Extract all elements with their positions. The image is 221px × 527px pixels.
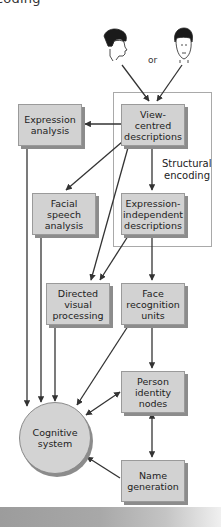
node-directed-visual-processing: Directed visual processing [46,283,110,325]
node-expression-analysis: Expression analysis [18,104,82,146]
node-person-identity-nodes: Person identity nodes [121,371,185,413]
node-face-recognition-units: Face recognition units [121,283,185,325]
structural-encoding-label: Structural encoding [162,158,210,182]
bottom-gradient-bar [0,507,221,527]
arrow-frontal-to-view [157,65,182,101]
node-name-generation: Name generation [121,460,185,502]
face-frontal-icon [175,28,193,63]
node-cognitive-system: Cognitive system [19,402,91,474]
arrow-profile-to-view [122,65,149,101]
face-profile-icon [104,29,127,61]
node-facial-speech-analysis: Facial speech analysis [32,193,96,235]
node-expression-independent-descriptions: Expression- independent descriptions [121,193,185,235]
node-view-centred-descriptions: View-centred descriptions [121,104,185,146]
or-connector-label: or [148,55,157,65]
